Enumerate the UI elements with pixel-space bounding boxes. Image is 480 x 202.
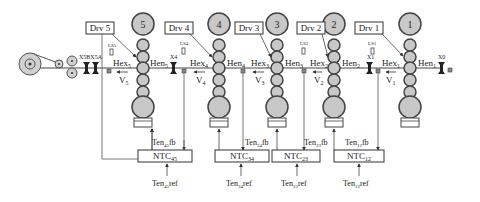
ten12ref-label: Ten12ref <box>343 179 369 189</box>
v3-label: V3 <box>255 75 265 86</box>
hen1-label: Hen1 <box>418 58 436 69</box>
stand-1: 1 <box>399 13 421 127</box>
ntc12-controller: NTC12 Ten12fb Ten12ref <box>334 129 384 189</box>
stand-5-number: 5 <box>141 19 146 30</box>
ls2-sensor-icon <box>302 48 305 54</box>
hex4-label: Hex4 <box>190 58 208 69</box>
ntc34-controller: NTC34 Ten34fb Ten34ref <box>215 129 269 189</box>
drv5-label: Drv 5 <box>90 23 111 33</box>
ten23fb-label: Ten23fb <box>304 138 328 148</box>
drv4-label: Drv 4 <box>169 23 190 33</box>
stand-2-number: 2 <box>332 19 337 30</box>
stand-3-number: 3 <box>275 19 280 30</box>
v5-label: V5 <box>119 75 129 86</box>
ls5-sensor-icon <box>110 49 113 55</box>
ls4-sensor-icon <box>182 48 185 54</box>
hex2-label: Hex2 <box>310 58 328 69</box>
ls2-label: LS2 <box>300 41 309 46</box>
x5bx5a-label: X5BX5A <box>79 54 103 60</box>
ten45fb-label: Ten45fb <box>152 138 176 148</box>
loadcell-3-icon <box>241 69 245 73</box>
v4-label: V4 <box>196 75 206 86</box>
ten34ref-label: Ten34ref <box>226 179 252 189</box>
ten23ref-label: Ten23ref <box>281 179 307 189</box>
hex1-label: Hex1 <box>382 58 400 69</box>
ntc23-controller: NTC23 Ten23fb Ten23ref <box>272 129 328 189</box>
ten12fb-label: Ten12fb <box>345 138 369 148</box>
rolling-mill-diagram: X5BX5A 5 Drv 5 LS5 Hex5 Hen5 V5 X4 LS4 4 <box>0 0 480 202</box>
ls4-label: LS4 <box>180 41 189 46</box>
loadcell-5-icon <box>107 69 111 73</box>
uncoiler-icon <box>19 53 77 78</box>
ten45ref-label: Ten45ref <box>152 179 178 189</box>
stand-5: 5 <box>132 13 154 127</box>
loadcell-0-icon <box>448 68 452 72</box>
stand-1-number: 1 <box>408 19 413 30</box>
loadcell-4-icon <box>182 69 186 73</box>
hen3-label: Hen3 <box>285 58 303 69</box>
drv3-label: Drv 3 <box>239 23 260 33</box>
stand-3: 3 <box>266 13 288 127</box>
v1-label: V1 <box>386 75 396 86</box>
ls1-sensor-icon <box>371 48 374 54</box>
x0-label: X0 <box>438 54 445 60</box>
hex5-label: Hex5 <box>113 58 131 69</box>
drv2-label: Drv 2 <box>301 23 322 33</box>
ten34fb-label: Ten34fb <box>245 138 269 148</box>
ls5-label: LS5 <box>108 43 117 48</box>
ls1-label: LS1 <box>368 41 377 46</box>
loadcell-2-icon <box>302 69 306 73</box>
hen5-label: Hen5 <box>150 58 168 69</box>
drv1-label: Drv 1 <box>359 23 380 33</box>
hen4-label: Hen4 <box>227 58 245 69</box>
stand-4: 4 <box>208 13 230 127</box>
x1-label: X1 <box>367 54 374 60</box>
v2-label: V2 <box>314 75 324 86</box>
stand-4-number: 4 <box>217 19 222 30</box>
hen2-label: Hen2 <box>342 58 360 69</box>
loadcell-1-icon <box>376 69 380 73</box>
hex3-label: Hex3 <box>251 58 269 69</box>
stand-2: 2 <box>323 13 345 127</box>
x4-label: X4 <box>170 54 177 60</box>
